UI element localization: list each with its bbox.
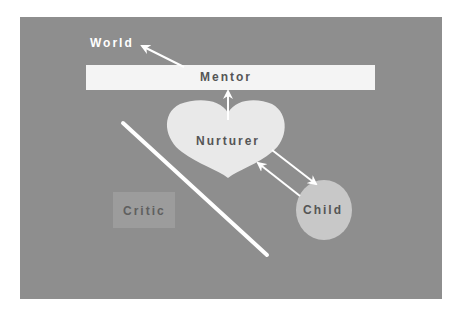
world-label: World: [90, 36, 134, 50]
child-label: Child: [303, 203, 343, 217]
nurturer-label: Nurturer: [196, 134, 260, 148]
mentor-label: Mentor: [200, 70, 252, 84]
diagram-shapes: [0, 0, 462, 316]
critic-label: Critic: [123, 204, 166, 218]
arrow-mentor-to-world: [142, 46, 184, 67]
